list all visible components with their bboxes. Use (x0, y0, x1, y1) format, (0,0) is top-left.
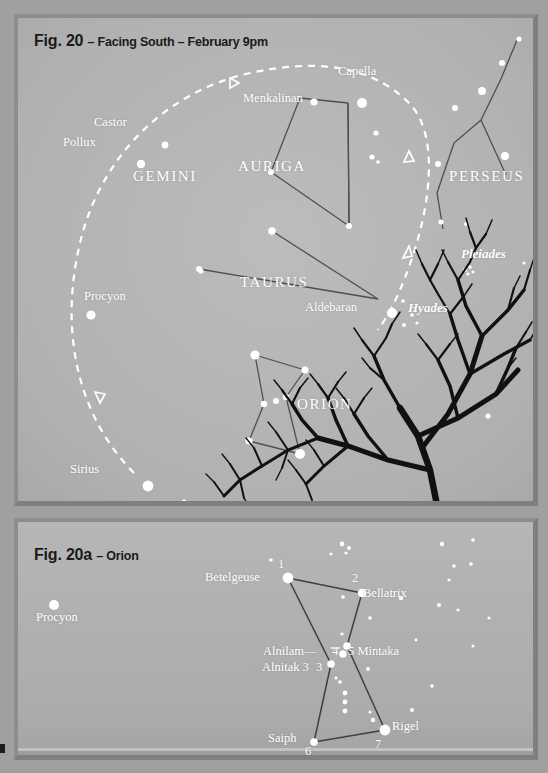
label-saiph: Saiph (268, 731, 296, 746)
star-alnitak (327, 660, 335, 668)
label-number-3: 3 (316, 660, 322, 675)
label-number-2: 2 (352, 571, 358, 586)
star-sword-1 (338, 680, 342, 684)
star-perseus-c (478, 87, 486, 95)
figure-caption-sky: Fig. 20 – Facing South – February 9pm (34, 32, 268, 50)
star-auriga-g (376, 160, 380, 164)
label-orion: ORION (297, 396, 353, 413)
label-number-1: 1 (278, 557, 284, 572)
star-alnilam (339, 650, 347, 658)
star-menkalinan (310, 98, 317, 105)
label-aldebaran: Aldebaran (305, 300, 357, 315)
star-hyades-1 (401, 299, 405, 303)
star-perseus-a (516, 36, 521, 41)
star-pollux (137, 160, 145, 168)
figure-panel-sky (14, 14, 538, 506)
label-procyon: Procyon (84, 289, 126, 304)
star-ov-betelgeuse (250, 350, 259, 359)
label-pleiades: Pleiades (461, 246, 506, 262)
star-sword-2 (343, 691, 348, 696)
label-sirius: Sirius (70, 462, 99, 477)
label-gemini: GEMINI (133, 168, 197, 185)
star-hyades-3 (402, 323, 406, 327)
label-number-4: 4 (332, 644, 338, 659)
label-bellatrix: Bellatrix (363, 586, 407, 601)
star-perseus-f (438, 219, 443, 224)
label-menkalinan: Menkalinan (243, 91, 303, 106)
label-number-6: 6 (305, 744, 311, 759)
horizon-band (18, 504, 538, 506)
page-edge-mark (0, 744, 5, 753)
star-hyades-4 (415, 321, 418, 324)
star-auriga-d (346, 223, 352, 229)
label-procyon-lower: Procyon (36, 610, 78, 625)
star-perseus-e (435, 161, 441, 167)
star-taurus-beta (268, 227, 276, 235)
star-taurus-zeta (196, 266, 202, 272)
star-ov-bellatrix (301, 366, 308, 373)
star-procyon-lower (49, 600, 59, 610)
star-field-4 (522, 261, 525, 264)
star-rigel (380, 725, 391, 736)
label-alnilam: Alnilam— (263, 644, 316, 659)
star-betelgeuse (283, 573, 294, 584)
label-perseus: PERSEUS (449, 168, 524, 185)
star-ov-rigel (295, 449, 305, 459)
star-saiph (310, 738, 318, 746)
label-alnitak: Alnitak 3 (262, 660, 309, 675)
star-sword-4 (343, 709, 348, 714)
label-hyades: Hyades (408, 300, 448, 316)
label-mintaka: 5 Mintaka (348, 644, 399, 659)
label-betelgeuse: Betelgeuse (205, 570, 260, 585)
star-sword-3 (343, 700, 348, 705)
star-auriga-f (369, 154, 374, 159)
caption-text: – Facing South – February 9pm (88, 35, 268, 49)
figure-caption-orion: Fig. 20a – Orion (34, 546, 139, 564)
star-field-3 (485, 413, 490, 418)
ground-band (18, 750, 538, 760)
caption-number: Fig. 20a (34, 546, 92, 563)
star-ov-alnilam (273, 398, 279, 404)
star-field-1 (181, 499, 186, 504)
star-auriga-e (373, 130, 378, 135)
star-castor (162, 142, 169, 149)
star-perseus-h (501, 152, 509, 160)
label-taurus: TAURUS (240, 274, 308, 291)
star-procyon (86, 310, 95, 319)
label-number-7: 7 (375, 737, 381, 752)
label-castor: Castor (94, 115, 127, 130)
label-rigel: Rigel (392, 719, 419, 734)
page-background: Fig. 20 – Facing South – February 9pm Ca… (0, 0, 548, 773)
label-capella: Capella (338, 64, 376, 79)
star-ov-alnitak (261, 401, 267, 407)
caption-text: – Orion (96, 549, 138, 563)
label-auriga: AURIGA (238, 158, 306, 175)
star-capella (357, 98, 367, 108)
star-perseus-d (452, 105, 458, 111)
star-perseus-b (499, 60, 505, 66)
label-pollux: Pollux (63, 135, 96, 150)
star-aldebaran (387, 308, 397, 318)
horizon-highlight (18, 748, 538, 751)
star-sirius (143, 481, 154, 492)
caption-number: Fig. 20 (34, 32, 83, 49)
